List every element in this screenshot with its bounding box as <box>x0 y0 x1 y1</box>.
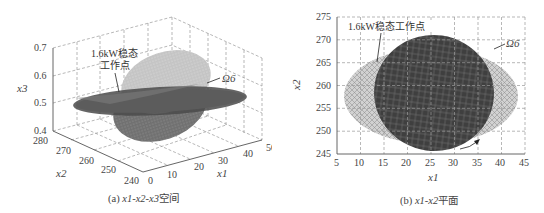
svg-text:260: 260 <box>79 155 94 166</box>
svg-text:40: 40 <box>243 148 253 159</box>
omega-label-a: Ω6 <box>222 72 236 84</box>
svg-text:40: 40 <box>495 157 505 168</box>
svg-text:250: 250 <box>316 125 331 136</box>
svg-text:30: 30 <box>218 155 228 166</box>
steady-state-ellipse <box>367 27 502 159</box>
svg-text:0.5: 0.5 <box>34 97 47 108</box>
svg-text:260: 260 <box>316 80 331 91</box>
svg-text:5: 5 <box>334 157 339 168</box>
svg-text:10: 10 <box>354 157 364 168</box>
svg-text:25: 25 <box>425 157 435 168</box>
x1-axis-label-b: x1 <box>427 171 438 183</box>
x1-axis-label: x1 <box>216 167 227 179</box>
svg-text:270: 270 <box>316 34 331 45</box>
svg-text:270: 270 <box>56 145 71 156</box>
svg-text:265: 265 <box>316 57 331 68</box>
x2-axis-label: x2 <box>55 167 67 179</box>
svg-text:20: 20 <box>194 161 204 172</box>
arrowhead-icon <box>474 139 480 145</box>
svg-text:0: 0 <box>148 175 153 186</box>
svg-text:240: 240 <box>124 175 139 186</box>
omega-pointer-b <box>494 44 505 49</box>
svg-text:30: 30 <box>448 157 458 168</box>
x2-ticks-b: 275 270 265 260 255 250 245 <box>316 11 331 159</box>
x2-axis-label-b: x2 <box>290 79 302 91</box>
omega-label-b: Ω6 <box>506 37 520 49</box>
panel-b-2d-chart: 1.6kW稳态工作点 Ω6 275 270 265 260 255 250 24… <box>272 0 544 213</box>
svg-text:20: 20 <box>401 157 411 168</box>
svg-text:10: 10 <box>167 169 177 180</box>
annotation-steady-state-a: 1.6kW稳态 <box>91 47 138 59</box>
x3-axis-label: x3 <box>16 82 28 94</box>
caption-a: (a) x1-x2-x3空间 <box>108 190 179 205</box>
svg-text:45: 45 <box>519 157 529 168</box>
svg-text:0.6: 0.6 <box>34 70 47 81</box>
svg-text:245: 245 <box>316 148 331 159</box>
panel-a-3d-chart: 1.6kW稳态 工作点 Ω6 0.7 0.6 0.5 0.4 x3 280 27… <box>0 0 272 213</box>
svg-text:275: 275 <box>316 11 331 22</box>
svg-text:250: 250 <box>101 164 116 175</box>
svg-text:15: 15 <box>378 157 388 168</box>
caption-b: (b) x1-x2平面 <box>400 192 458 207</box>
svg-text:35: 35 <box>472 157 482 168</box>
annotation-pointer-a <box>115 73 119 92</box>
panel-a-plot: 1.6kW稳态 工作点 Ω6 0.7 0.6 0.5 0.4 x3 280 27… <box>0 0 272 213</box>
x3-ticks: 0.7 0.6 0.5 0.4 <box>34 42 47 136</box>
annotation-steady-state-a-line2: 工作点 <box>100 60 130 71</box>
svg-text:0.7: 0.7 <box>34 42 47 53</box>
x1-ticks-b: 5 10 15 20 25 30 35 40 45 <box>334 157 529 168</box>
panel-b-plot: 1.6kW稳态工作点 Ω6 275 270 265 260 255 250 24… <box>272 0 544 213</box>
svg-text:255: 255 <box>316 102 331 113</box>
svg-text:280: 280 <box>33 135 48 146</box>
x2-ticks: 280 270 260 250 240 <box>33 135 139 186</box>
annotation-steady-state-b: 1.6kW稳态工作点 <box>348 20 425 32</box>
